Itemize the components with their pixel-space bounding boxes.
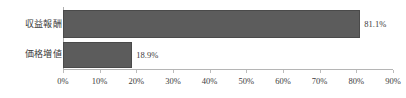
x-axis-tick bbox=[393, 70, 394, 73]
x-axis-tick-label: 20% bbox=[116, 76, 156, 86]
x-axis-tick-label: 30% bbox=[153, 76, 193, 86]
category-label: 価格増値 bbox=[0, 49, 62, 59]
x-axis-tick bbox=[283, 70, 284, 73]
x-axis-tick bbox=[356, 70, 357, 73]
x-axis-tick-label: 80% bbox=[336, 76, 376, 86]
x-axis-tick bbox=[63, 70, 64, 73]
x-axis-tick-label: 90% bbox=[373, 76, 406, 86]
category-axis-line bbox=[63, 69, 393, 70]
x-axis-tick bbox=[173, 70, 174, 73]
x-axis-tick-label: 0% bbox=[43, 76, 83, 86]
x-axis-tick-label: 10% bbox=[80, 76, 120, 86]
x-axis-tick-label: 60% bbox=[263, 76, 303, 86]
x-axis-tick-label: 40% bbox=[190, 76, 230, 86]
category-label: 収益報酬 bbox=[0, 19, 62, 29]
x-axis-tick bbox=[246, 70, 247, 73]
x-axis-tick bbox=[136, 70, 137, 73]
bar bbox=[63, 42, 132, 68]
bar bbox=[63, 10, 360, 38]
x-axis-tick-label: 70% bbox=[300, 76, 340, 86]
bar-value-label: 18.9% bbox=[136, 50, 158, 60]
x-axis-tick bbox=[100, 70, 101, 73]
bar-value-label: 81.1% bbox=[364, 19, 386, 29]
x-axis-tick bbox=[210, 70, 211, 73]
x-axis-tick bbox=[320, 70, 321, 73]
x-axis-tick-label: 50% bbox=[226, 76, 266, 86]
